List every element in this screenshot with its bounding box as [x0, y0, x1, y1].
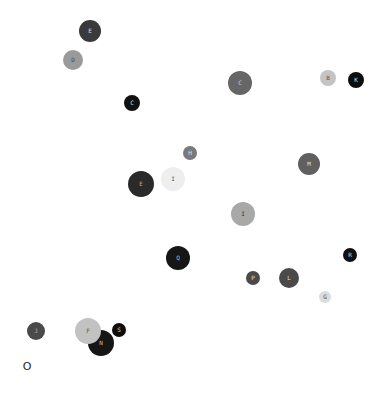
- bubble-label: B: [326, 75, 330, 81]
- bubble-label: C: [130, 100, 134, 106]
- bubble-s: S: [112, 323, 126, 337]
- bubble-c: C: [228, 71, 252, 95]
- bubble-q: Q: [166, 246, 190, 270]
- bubble-e: E: [128, 171, 154, 197]
- bubble-k: K: [348, 72, 364, 88]
- bubble-label: R: [348, 252, 352, 258]
- bubble-label: N: [99, 340, 103, 346]
- bubble-label: Q: [176, 255, 180, 261]
- bubble-label: S: [117, 327, 121, 333]
- bubble-label: K: [354, 77, 358, 83]
- bubble-chart-canvas: EDCCBKHEIMIQRPLGJNFSO: [0, 0, 383, 394]
- bubble-g: G: [319, 291, 331, 303]
- bubble-label: E: [88, 28, 92, 34]
- annotation-label: O: [23, 360, 32, 373]
- bubble-label: F: [86, 328, 90, 334]
- bubble-label: E: [139, 181, 143, 187]
- bubble-d: D: [63, 50, 83, 70]
- bubble-l: L: [279, 268, 299, 288]
- bubble-i: I: [161, 167, 185, 191]
- bubble-m: M: [298, 153, 320, 175]
- bubble-r: R: [343, 248, 357, 262]
- bubble-h: H: [183, 146, 197, 160]
- bubble-label: I: [241, 211, 245, 217]
- bubble-p: P: [246, 271, 260, 285]
- bubble-label: M: [307, 161, 311, 167]
- bubble-label: J: [34, 328, 38, 334]
- bubble-c: C: [124, 95, 140, 111]
- bubble-label: I: [171, 176, 175, 182]
- bubble-i: I: [231, 202, 255, 226]
- bubble-b: B: [320, 70, 336, 86]
- bubble-e: E: [79, 20, 101, 42]
- bubble-label: H: [188, 150, 192, 156]
- bubble-j: J: [27, 322, 45, 340]
- bubble-f: F: [75, 318, 101, 344]
- bubble-label: L: [287, 275, 291, 281]
- bubble-label: P: [251, 275, 255, 281]
- bubble-label: C: [238, 80, 242, 86]
- bubble-label: G: [323, 294, 327, 300]
- bubble-label: D: [71, 57, 75, 63]
